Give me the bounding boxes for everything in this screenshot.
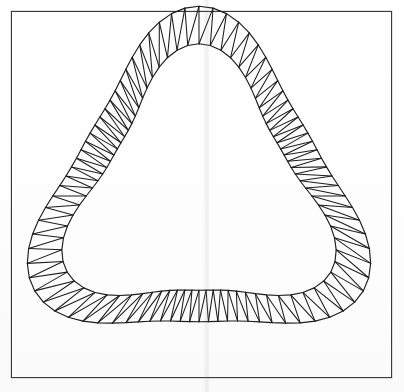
- radial-rung: [331, 272, 364, 291]
- radial-rung: [306, 186, 339, 188]
- radial-rung: [83, 295, 107, 321]
- outer-boundary-curve: [27, 6, 370, 323]
- triangulation-diagonal: [35, 281, 75, 291]
- triangulation-diagonal: [251, 69, 272, 88]
- triangulation-diagonal: [199, 290, 206, 322]
- radial-rung: [220, 290, 227, 321]
- triangulation-diagonal: [115, 91, 132, 124]
- radial-rung: [90, 133, 117, 149]
- triangulation-diagonal: [277, 133, 308, 143]
- radial-rung: [68, 292, 95, 317]
- radial-rung: [331, 226, 366, 234]
- triangulation-diagonal: [33, 234, 64, 238]
- triangulation-diagonal: [335, 262, 363, 291]
- triangulation-diagonal: [90, 133, 114, 155]
- radial-rung: [281, 133, 308, 149]
- triangulation-diagonal: [324, 281, 343, 311]
- triangulated-annulus-drawing: [0, 0, 404, 392]
- diagonal-triangulation-lines: [27, 6, 370, 323]
- inner-boundary-curve: [62, 44, 336, 296]
- radial-rung: [295, 167, 326, 174]
- triangulation-diagonal: [281, 141, 313, 149]
- caption-zone: [0, 380, 404, 392]
- radial-rung: [115, 91, 135, 116]
- outer-boundary-path: [27, 6, 370, 323]
- inner-boundary-path: [62, 44, 336, 296]
- triangulation-diagonal: [228, 290, 229, 321]
- triangulation-diagonal: [208, 290, 213, 322]
- triangulation-diagonal: [46, 208, 74, 215]
- radial-rung: [46, 205, 80, 208]
- radial-rung: [29, 238, 64, 249]
- triangulation-diagonal: [53, 196, 80, 205]
- radial-rung: [336, 250, 370, 264]
- radial-rung: [95, 125, 121, 143]
- radial-rung: [303, 292, 330, 317]
- triangulation-diagonal: [177, 8, 185, 50]
- radial-rung: [185, 8, 188, 45]
- triangulation-diagonal: [314, 288, 329, 317]
- radial-rung: [300, 176, 332, 181]
- radial-rung: [335, 238, 370, 249]
- triangulation-diagonal: [246, 57, 266, 77]
- radial-rung: [33, 226, 68, 234]
- radial-rung: [291, 295, 315, 321]
- triangulation-diagonal: [303, 292, 315, 321]
- triangulation-diagonal: [68, 295, 107, 317]
- radial-rung: [259, 81, 278, 108]
- triangulation-diagonal: [291, 167, 326, 168]
- triangulation-diagonal: [318, 205, 359, 220]
- radial-rung: [206, 290, 208, 321]
- radial-rung: [170, 290, 177, 321]
- triangulation-diagonal: [221, 22, 239, 50]
- triangulation-diagonal: [83, 296, 120, 322]
- radial-rung: [72, 167, 103, 174]
- figure-root: [0, 0, 404, 392]
- triangulation-diagonal: [291, 295, 300, 323]
- radial-rung: [39, 215, 74, 220]
- triangulation-diagonal: [167, 14, 171, 58]
- triangulation-diagonal: [39, 220, 68, 226]
- triangulation-diagonal: [300, 181, 338, 186]
- radial-rung: [213, 290, 218, 321]
- triangulation-diagonal: [188, 6, 199, 45]
- triangulation-diagonal: [255, 81, 277, 99]
- radial-rung: [172, 14, 178, 51]
- triangulation-diagonal: [336, 250, 369, 278]
- triangulation-diagonal: [335, 238, 371, 264]
- radial-rung: [159, 22, 167, 58]
- radial-rung: [246, 45, 259, 78]
- triangulation-diagonal: [218, 290, 221, 321]
- radial-rung: [76, 158, 106, 167]
- radial-rung: [239, 33, 250, 67]
- triangulation-diagonal: [295, 174, 332, 176]
- radial-rung-lines: [27, 6, 370, 323]
- triangulation-diagonal: [29, 249, 62, 250]
